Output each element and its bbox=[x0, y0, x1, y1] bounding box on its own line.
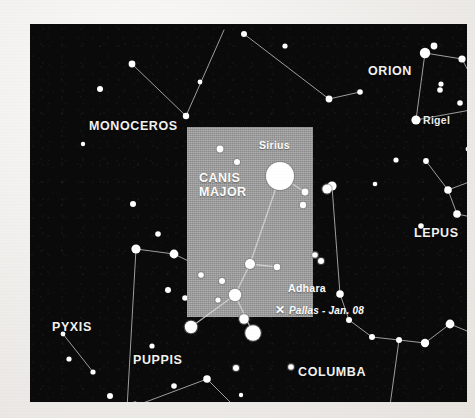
star-marker bbox=[411, 115, 420, 124]
highlight-constellation-lines bbox=[191, 176, 305, 333]
star-marker bbox=[346, 317, 352, 323]
star-marker bbox=[326, 96, 333, 103]
constellation-line bbox=[186, 30, 224, 116]
constellation-line bbox=[127, 249, 136, 402]
star-sirius bbox=[266, 162, 294, 190]
star-marker bbox=[288, 364, 294, 370]
constellation-line bbox=[63, 334, 93, 372]
constellation-line bbox=[207, 379, 270, 402]
star-marker bbox=[130, 201, 136, 207]
star-marker bbox=[421, 339, 429, 347]
star-marker bbox=[245, 259, 255, 269]
pallas-position-marker-icon: ✕ bbox=[275, 304, 285, 316]
star-marker bbox=[357, 89, 363, 95]
star-marker bbox=[185, 321, 197, 333]
star-marker bbox=[233, 365, 239, 371]
star-chart-image: MONOCEROS ORION Rigel LEPUS PYXIS PUPPIS… bbox=[0, 0, 475, 418]
star-marker bbox=[229, 289, 241, 301]
constellation-line bbox=[372, 337, 399, 340]
star-marker bbox=[131, 244, 140, 253]
star-marker bbox=[302, 189, 309, 196]
star-marker bbox=[373, 182, 378, 187]
constellation-label-canis-major: CANIS MAJOR bbox=[199, 172, 247, 199]
star-marker bbox=[107, 393, 113, 399]
sky-panel: MONOCEROS ORION Rigel LEPUS PYXIS PUPPIS… bbox=[30, 24, 467, 402]
star-marker bbox=[466, 147, 467, 152]
star-marker bbox=[183, 113, 189, 119]
star-marker bbox=[282, 43, 287, 48]
star-marker bbox=[155, 231, 161, 237]
constellation-label-puppis: PUPPIS bbox=[133, 354, 182, 368]
star-marker bbox=[239, 393, 243, 397]
star-marker bbox=[369, 334, 375, 340]
star-marker bbox=[300, 202, 306, 208]
star-marker bbox=[420, 48, 430, 58]
star-marker bbox=[219, 278, 225, 284]
constellation-line bbox=[385, 340, 399, 402]
star-marker bbox=[318, 258, 324, 264]
star-marker bbox=[437, 87, 443, 93]
star-marker bbox=[322, 184, 331, 193]
constellation-line bbox=[426, 161, 448, 190]
star-marker bbox=[97, 86, 103, 92]
star-marker bbox=[149, 343, 154, 348]
star-marker bbox=[198, 272, 204, 278]
star-marker bbox=[165, 287, 171, 293]
star-marker bbox=[129, 61, 136, 68]
star-marker bbox=[444, 186, 452, 194]
star-marker bbox=[241, 31, 247, 37]
star-marker bbox=[239, 314, 249, 324]
star-marker bbox=[215, 297, 220, 302]
canis-major-highlight-box: CANIS MAJOR Sirius Adhara ✕ Pallas - Jan… bbox=[187, 127, 313, 317]
star-marker bbox=[66, 356, 71, 361]
constellation-label-columba: COLUMBA bbox=[298, 366, 366, 380]
constellation-label-lepus: LEPUS bbox=[414, 227, 459, 241]
star-marker bbox=[170, 250, 179, 259]
constellation-line bbox=[448, 190, 457, 214]
star-marker bbox=[90, 369, 95, 374]
star-marker bbox=[312, 252, 318, 258]
star-marker bbox=[453, 210, 461, 218]
constellation-line bbox=[244, 34, 329, 99]
pallas-annotation-label: Pallas - Jan. 08 bbox=[289, 305, 364, 316]
constellation-line bbox=[416, 53, 425, 120]
star-marker bbox=[446, 320, 455, 329]
constellation-line bbox=[349, 320, 372, 337]
star-marker bbox=[198, 80, 203, 85]
constellation-line bbox=[136, 249, 174, 254]
constellation-line bbox=[462, 59, 467, 107]
star-marker bbox=[234, 159, 240, 165]
star-marker bbox=[217, 146, 224, 153]
constellation-line bbox=[127, 379, 207, 402]
constellation-line bbox=[329, 92, 360, 99]
star-marker bbox=[274, 264, 280, 270]
star-marker bbox=[132, 401, 137, 402]
constellation-label-monoceros: MONOCEROS bbox=[89, 120, 178, 134]
star-marker bbox=[203, 375, 211, 383]
star-marker bbox=[81, 142, 85, 146]
constellation-line bbox=[332, 186, 340, 294]
star-marker bbox=[393, 157, 398, 162]
constellation-label-orion: ORION bbox=[368, 65, 412, 79]
constellation-line bbox=[132, 64, 186, 116]
star-label-sirius: Sirius bbox=[259, 139, 290, 151]
star-label-rigel: Rigel bbox=[423, 114, 450, 126]
star-marker bbox=[336, 290, 344, 298]
constellation-label-pyxis: PYXIS bbox=[52, 321, 92, 335]
star-marker bbox=[171, 383, 177, 389]
star-marker bbox=[438, 81, 443, 86]
star-marker bbox=[457, 100, 463, 106]
constellation-line bbox=[425, 324, 450, 343]
star-adhara bbox=[245, 325, 261, 341]
star-marker bbox=[423, 158, 429, 164]
constellation-line bbox=[425, 53, 462, 59]
star-marker bbox=[396, 337, 402, 343]
star-label-adhara: Adhara bbox=[288, 282, 326, 294]
star-marker bbox=[458, 55, 465, 62]
star-marker bbox=[431, 43, 438, 50]
